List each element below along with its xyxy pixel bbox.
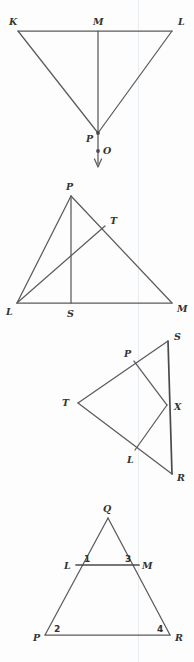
figure-4-triangle-pqr: Q L M P R 1 3 2 4 bbox=[32, 503, 183, 643]
label-l: L bbox=[63, 560, 71, 571]
segment-pm bbox=[71, 196, 172, 303]
label-p: P bbox=[65, 181, 74, 192]
segment-lp bbox=[98, 31, 172, 133]
segment-px bbox=[134, 361, 167, 405]
label-p: P bbox=[32, 632, 41, 643]
segment-xl bbox=[135, 405, 167, 450]
figure-2-triangle-plm: P T L S M bbox=[5, 181, 188, 319]
worksheet-page: K L M P O P T L S M S P bbox=[0, 0, 194, 662]
label-o: O bbox=[103, 145, 112, 156]
angle-label-2: 2 bbox=[54, 624, 60, 634]
angle-label-1: 1 bbox=[84, 554, 90, 564]
segment-lp bbox=[17, 196, 71, 303]
label-l: L bbox=[126, 454, 134, 465]
label-m: M bbox=[141, 560, 153, 571]
point-o-dot bbox=[96, 149, 100, 153]
figure-3-triangle-str: S P T X L R bbox=[62, 331, 185, 483]
point-p-dot bbox=[96, 131, 100, 135]
label-m: M bbox=[176, 303, 188, 314]
label-m: M bbox=[92, 16, 104, 27]
segment-st bbox=[78, 341, 168, 403]
label-x: X bbox=[173, 401, 182, 412]
label-q: Q bbox=[103, 503, 112, 514]
label-l: L bbox=[177, 16, 185, 27]
label-s: S bbox=[67, 308, 74, 319]
label-s: S bbox=[174, 331, 181, 342]
label-p: P bbox=[85, 133, 94, 144]
label-r: R bbox=[176, 472, 185, 483]
figures-canvas: K L M P O P T L S M S P bbox=[0, 0, 194, 662]
segment-kp bbox=[18, 31, 98, 133]
label-t: T bbox=[62, 397, 70, 408]
segment-sr bbox=[168, 341, 172, 474]
label-p: P bbox=[123, 348, 132, 359]
angle-label-4: 4 bbox=[157, 624, 163, 634]
label-k: K bbox=[8, 16, 18, 27]
segment-qr bbox=[108, 518, 170, 635]
label-l: L bbox=[5, 306, 13, 317]
label-r: R bbox=[174, 632, 183, 643]
segment-qp bbox=[45, 518, 108, 635]
segment-lt-cevian bbox=[17, 226, 105, 303]
angle-label-3: 3 bbox=[125, 554, 131, 564]
segment-tr bbox=[78, 403, 172, 474]
figure-1-triangle-klp: K L M P O bbox=[8, 16, 185, 167]
label-t: T bbox=[110, 215, 118, 226]
